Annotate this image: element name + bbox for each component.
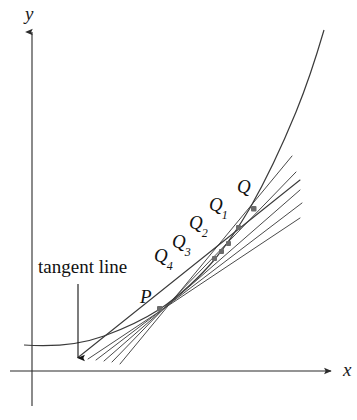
- secant-line-p-q: [120, 156, 292, 364]
- marker-point-q3: [219, 249, 224, 254]
- marker-point-p: [157, 306, 163, 312]
- y-axis-label: y: [25, 4, 33, 23]
- x-axis-label: x: [343, 360, 351, 379]
- secant-line-p-q1: [112, 172, 296, 362]
- point-label-q2: Q2: [189, 213, 209, 236]
- point-label-q1: Q1: [209, 195, 229, 218]
- marker-point-q: [251, 206, 257, 212]
- marker-point-q4: [212, 256, 217, 261]
- axes-group: [10, 32, 331, 406]
- function-curve: [24, 30, 324, 346]
- figure-canvas: [0, 0, 357, 420]
- marker-point-q2: [226, 241, 231, 246]
- figure-container: y x tangent line P Q4 Q3 Q2 Q1 Q: [0, 0, 357, 420]
- marker-point-q1: [236, 225, 241, 230]
- secant-line-p-q4: [88, 218, 300, 359]
- point-label-q: Q: [237, 177, 251, 196]
- point-label-q4: Q4: [154, 246, 174, 269]
- tangent-line-annotation-label: tangent line: [38, 257, 127, 276]
- point-label-p: P: [140, 287, 152, 306]
